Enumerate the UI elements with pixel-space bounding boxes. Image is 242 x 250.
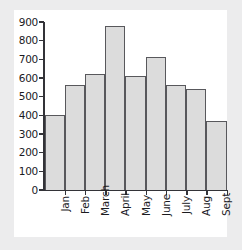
y-axis-label: 500 [14, 91, 38, 102]
y-axis-label: 600 [14, 73, 38, 84]
bar [166, 85, 186, 190]
x-axis-label: June [161, 196, 172, 216]
y-axis-tick [39, 171, 44, 172]
y-axis-tick [39, 96, 44, 97]
y-axis-tick [39, 115, 44, 116]
y-axis-tick [39, 40, 44, 41]
y-axis-tick [39, 152, 44, 153]
x-axis-label: March [100, 196, 111, 216]
bar [206, 121, 226, 190]
bar [85, 74, 105, 190]
x-axis-tick [186, 190, 187, 195]
y-axis-tick [39, 133, 44, 134]
chart-card: 9008007006005004003002001000 JanFebMarch… [14, 10, 227, 237]
x-axis-tick [65, 190, 66, 195]
y-axis-label: 400 [14, 110, 38, 121]
y-axis-label: 300 [14, 129, 38, 140]
bar [65, 85, 85, 190]
y-axis-label: 0 [14, 185, 38, 196]
y-axis-label: 700 [14, 54, 38, 65]
x-axis-label: Jan [60, 196, 71, 216]
bar [105, 26, 125, 190]
y-axis-label: 100 [14, 166, 38, 177]
bar-series [45, 22, 227, 190]
x-axis-tick [206, 190, 207, 195]
y-axis-tick [39, 21, 44, 22]
x-axis-label: Aug [201, 196, 212, 216]
x-axis-tick [85, 190, 86, 195]
y-axis-tick [39, 59, 44, 60]
y-axis-label: 200 [14, 147, 38, 158]
bar [146, 57, 166, 190]
x-axis-label: April [120, 196, 131, 216]
x-axis-label: July [181, 196, 192, 216]
y-axis-tick-labels: 9008007006005004003002001000 [10, 10, 38, 200]
bar [45, 115, 65, 190]
bar [186, 89, 206, 190]
x-axis-tick-labels: JanFebMarchAprilMayJuneJulyAugSept [45, 196, 227, 236]
y-axis-tick [39, 189, 44, 190]
x-axis-label: May [141, 196, 152, 216]
y-axis-label: 800 [14, 35, 38, 46]
bar [125, 76, 145, 190]
y-axis-tick [39, 77, 44, 78]
bar-chart-plot-area: 9008007006005004003002001000 JanFebMarch… [14, 10, 227, 237]
y-axis-label: 900 [14, 17, 38, 28]
x-axis-label: Sept [221, 196, 232, 216]
x-axis-label: Feb [80, 196, 91, 216]
